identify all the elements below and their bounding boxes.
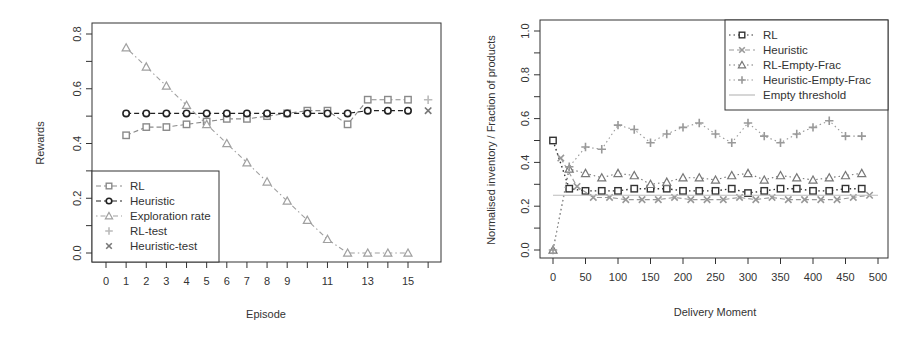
plus-marker	[581, 143, 589, 151]
circle-marker	[304, 110, 310, 116]
circle-marker	[106, 198, 112, 204]
circle-marker	[385, 107, 391, 113]
triangle-marker	[712, 176, 720, 183]
triangle-marker	[738, 61, 745, 67]
series-rl-empty-frac	[549, 165, 866, 253]
x-marker	[425, 107, 431, 113]
circle-marker	[123, 110, 129, 116]
legend-item: Heuristic	[729, 44, 808, 56]
legend-label: RL	[130, 180, 145, 192]
plus-marker	[565, 163, 573, 171]
x-marker	[671, 194, 677, 200]
square-marker	[761, 188, 767, 194]
right-plot-frame	[540, 20, 888, 258]
right-series	[549, 117, 878, 255]
square-marker	[163, 124, 169, 130]
x-marker	[818, 196, 824, 202]
x-tick-label: 400	[804, 271, 822, 283]
series-rl	[550, 137, 865, 196]
square-marker	[550, 137, 556, 143]
circle-marker	[365, 107, 371, 113]
x-marker	[753, 196, 759, 202]
square-marker	[664, 185, 670, 191]
triangle-marker	[263, 178, 271, 185]
circle-marker	[224, 110, 230, 116]
x-tick-label: 450	[836, 271, 854, 283]
plus-marker	[630, 125, 638, 133]
triangle-marker	[598, 174, 606, 181]
x-tick-label: 50	[579, 271, 591, 283]
plus-marker	[728, 138, 736, 146]
square-marker	[826, 188, 832, 194]
x-marker	[655, 196, 661, 202]
right-x-axis-title: Delivery Moment	[674, 306, 757, 318]
x-tick-label: 6	[224, 275, 230, 287]
legend-item: Heuristic-Empty-Frac	[729, 74, 871, 86]
plus-marker	[679, 123, 687, 131]
x-tick-label: 4	[183, 275, 189, 287]
triangle-marker	[323, 235, 331, 242]
square-marker	[680, 188, 686, 194]
circle-marker	[344, 110, 350, 116]
square-marker	[615, 188, 621, 194]
square-marker	[106, 183, 112, 189]
triangle-marker	[760, 176, 768, 183]
square-marker	[842, 185, 848, 191]
circle-marker	[264, 110, 270, 116]
square-marker	[599, 188, 605, 194]
y-tick-label: 0.8	[519, 67, 531, 82]
x-tick-label: 2	[143, 275, 149, 287]
x-marker	[623, 196, 629, 202]
right-y-axis: 0.00.20.40.60.81.0	[519, 23, 540, 257]
x-marker	[850, 194, 856, 200]
left-chart: 0.00.20.40.60.8 0123456789111315 Rewards…	[0, 0, 461, 340]
plus-marker	[760, 132, 768, 140]
y-tick-label: 0.6	[71, 81, 83, 96]
triangle-marker	[223, 140, 231, 147]
triangle-marker	[549, 246, 557, 253]
square-marker	[365, 97, 371, 103]
legend-label: Heuristic-Empty-Frac	[763, 74, 871, 86]
circle-marker	[183, 110, 189, 116]
x-tick-label: 0	[550, 271, 556, 283]
legend-label: Exploration rate	[130, 210, 211, 222]
square-marker	[183, 121, 189, 127]
x-marker	[720, 196, 726, 202]
triangle-marker	[695, 174, 703, 181]
series-heuristic-test	[425, 107, 431, 113]
series-rl	[123, 97, 411, 139]
x-marker	[704, 196, 710, 202]
square-marker	[344, 121, 350, 127]
right-x-axis: 050100150200250300350400450500	[550, 258, 887, 283]
plus-marker	[646, 138, 654, 146]
circle-marker	[163, 110, 169, 116]
triangle-marker	[183, 101, 191, 108]
triangle-marker	[728, 172, 736, 179]
circle-marker	[203, 110, 209, 116]
y-tick-label: 0.6	[519, 111, 531, 126]
left-y-axis: 0.00.20.40.60.8	[71, 26, 92, 260]
x-marker	[785, 196, 791, 202]
y-tick-label: 0.2	[519, 199, 531, 214]
triangle-marker	[582, 169, 590, 176]
x-marker	[688, 196, 694, 202]
plus-marker	[598, 145, 606, 153]
square-marker	[385, 97, 391, 103]
triangle-marker	[679, 174, 687, 181]
series-heuristic	[558, 155, 873, 203]
square-marker	[123, 132, 129, 138]
x-tick-label: 500	[869, 271, 887, 283]
plus-marker	[663, 130, 671, 138]
square-marker	[745, 190, 751, 196]
legend-label: RL-test	[130, 225, 168, 237]
x-tick-label: 15	[402, 275, 414, 287]
x-tick-label: 300	[739, 271, 757, 283]
left-x-axis-title: Episode	[246, 308, 286, 320]
triangle-marker	[663, 178, 671, 185]
legend-label: Empty threshold	[763, 89, 846, 101]
triangle-marker	[858, 169, 866, 176]
square-marker	[739, 32, 745, 38]
square-marker	[405, 97, 411, 103]
x-marker	[736, 194, 742, 200]
plus-marker	[424, 96, 432, 104]
